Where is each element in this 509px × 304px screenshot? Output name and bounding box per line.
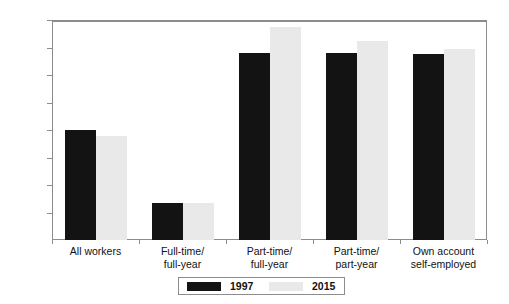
chart-legend: 19972015 [178,277,345,295]
bar-1997-3 [326,53,357,240]
x-axis-label-2: Part-time/full-year [220,245,319,270]
bar-1997-4 [413,54,444,240]
x-axis-label-4: Own accountself-employed [394,245,493,270]
legend-label-1997: 1997 [230,280,253,292]
bar-1997-0 [65,130,96,240]
y-axis: 01020304050607080% [0,0,52,304]
x-axis-tick-mark [400,240,401,244]
bar-2015-0 [96,136,127,241]
legend-item-2015: 2015 [269,278,335,294]
x-axis-tick-mark [52,240,53,244]
bar-2015-2 [270,27,301,240]
legend-label-2015: 2015 [312,280,335,292]
bar-1997-2 [239,53,270,240]
bar-2015-1 [183,203,214,240]
bars-layer [52,20,487,240]
x-axis-tick-mark [487,240,488,244]
x-axis-tick-mark [226,240,227,244]
x-axis-label-3: Part-time/part-year [307,245,406,270]
x-axis-label-0: All workers [46,245,145,258]
bar-2015-3 [357,41,388,240]
bar-chart: 01020304050607080% All workersFull-time/… [0,0,509,304]
x-axis-label-1: Full-time/full-year [133,245,232,270]
bar-2015-4 [444,49,475,240]
legend-swatch-1997 [187,282,221,291]
x-axis-tick-mark [139,240,140,244]
legend-item-1997: 1997 [187,278,253,294]
bar-1997-1 [152,203,183,240]
x-axis-tick-mark [313,240,314,244]
legend-swatch-2015 [269,282,303,291]
